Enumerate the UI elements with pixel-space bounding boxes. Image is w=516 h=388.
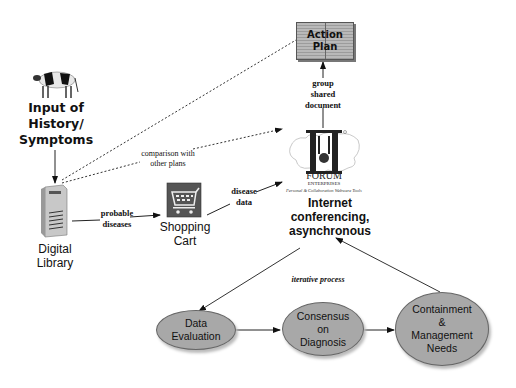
- consensus-line1: Consensus: [297, 310, 350, 323]
- forum-tagline: Personal & Collaboration Webware Tools: [283, 188, 365, 193]
- consensus-line3: Diagnosis: [297, 336, 350, 349]
- action-plan-line2: Plan: [307, 41, 343, 53]
- containment-line3: Management: [411, 329, 472, 342]
- probable-line2: diseases: [94, 219, 140, 230]
- group-line2: shared: [300, 89, 346, 100]
- forum-subtext: ENTERPRISES: [296, 181, 352, 187]
- data-eval-line1: Data: [171, 317, 220, 330]
- group-line1: group: [300, 78, 346, 89]
- probable-line1: probable: [94, 208, 140, 219]
- disease-line2: data: [226, 197, 262, 208]
- containment-line2: &: [411, 316, 472, 329]
- group-shared-document-label: group shared document: [300, 78, 346, 111]
- library-label-line1: Digital: [25, 242, 85, 256]
- action-plan-book: Action Plan: [296, 22, 354, 60]
- disease-line1: disease: [226, 186, 262, 197]
- probable-diseases-label: probable diseases: [94, 208, 140, 230]
- group-line3: document: [300, 100, 346, 111]
- comparison-line2: other plans: [138, 159, 198, 169]
- shopping-cart-icon: [167, 183, 201, 217]
- internet-line2: conferencing,: [280, 210, 380, 224]
- input-history-symptoms-label: Input of History/ Symptoms: [15, 100, 97, 148]
- internet-conferencing-label: Internet conferencing, asynchronous: [280, 196, 380, 238]
- comparison-line1: comparison with: [138, 149, 198, 159]
- internet-line3: asynchronous: [280, 224, 380, 238]
- server-tower-icon: [41, 185, 67, 237]
- input-label-line1: Input of: [15, 100, 97, 116]
- input-label-line3: Symptoms: [15, 132, 97, 148]
- internet-line1: Internet: [280, 196, 380, 210]
- data-evaluation-node: Data Evaluation: [156, 310, 236, 350]
- containment-management-node: Containment & Management Needs: [395, 292, 489, 366]
- forum-text: FORUM: [296, 171, 352, 181]
- shopping-cart-label: Shopping Cart: [152, 220, 218, 248]
- containment-line1: Containment: [411, 303, 472, 316]
- library-label-line2: Library: [25, 256, 85, 270]
- forum-logo-text: FORUM ENTERPRISES: [296, 171, 352, 187]
- containment-line4: Needs: [411, 342, 472, 355]
- diagram-canvas: Input of History/ Symptoms Digital Libra…: [0, 0, 516, 388]
- comparison-label: comparison with other plans: [138, 149, 198, 169]
- consensus-line2: on: [297, 323, 350, 336]
- disease-data-label: disease data: [226, 186, 262, 208]
- iterative-process-label: iterative process: [288, 275, 348, 284]
- digital-library-label: Digital Library: [25, 242, 85, 270]
- input-label-line2: History/: [15, 116, 97, 132]
- cart-label-line2: Cart: [152, 234, 218, 248]
- forum-logo-icon: [290, 130, 360, 174]
- data-eval-line2: Evaluation: [171, 330, 220, 343]
- consensus-diagnosis-node: Consensus on Diagnosis: [282, 302, 364, 356]
- cow-icon: [33, 72, 78, 98]
- cart-label-line1: Shopping: [152, 220, 218, 234]
- action-plan-line1: Action: [307, 29, 343, 41]
